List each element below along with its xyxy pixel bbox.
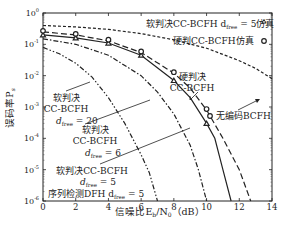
y-tick-label: 10-4	[24, 132, 39, 143]
x-tick-label: 14	[267, 202, 278, 212]
circle-marker	[172, 70, 177, 75]
curve	[43, 35, 231, 201]
label-soft20-1: 软判决	[53, 92, 80, 103]
y-tick-label: 10-3	[24, 101, 39, 112]
label-soft6-1: 软判决	[82, 124, 109, 135]
circle-marker	[106, 37, 111, 42]
y-tick-label: 10-2	[24, 70, 39, 81]
y-axis-label: 误码率Ps	[4, 88, 16, 128]
label-soft20-2: CC-BCFH	[44, 104, 89, 114]
x-tick-label: 0	[40, 202, 45, 212]
arrow-soft5	[100, 128, 190, 164]
svg-text:误码率Ps: 误码率Ps	[4, 88, 16, 128]
legend-hard-sim: 硬判CC-BCFH仿真	[173, 35, 254, 46]
circle-marker	[139, 49, 144, 54]
label-soft5-1: 软判决CC-BCFH	[56, 165, 128, 176]
x-tick-label: 2	[73, 202, 78, 212]
circle-marker-icon	[208, 114, 213, 119]
label-soft6-2: CC-BCFH	[73, 136, 118, 146]
x-tick-label: 12	[234, 202, 245, 212]
y-tick-label: 10-5	[24, 164, 39, 175]
arrow-uncoded	[238, 100, 258, 110]
label-hard-decision-1: 硬判决	[179, 71, 206, 82]
y-tick-label: 10-1	[24, 38, 39, 49]
y-tick-label: 100	[26, 7, 39, 18]
y-tick-label: 10-6	[24, 195, 39, 206]
ber-chart: 0246810121410010-110-210-310-410-510-6 误…	[0, 0, 288, 238]
curve	[43, 39, 207, 201]
arrow-soft6	[85, 100, 150, 124]
x-tick-label: 4	[106, 202, 111, 212]
circle-marker	[204, 107, 209, 112]
x-axis-label: 信噪比Eb/N0（dB）	[115, 206, 204, 218]
label-hard-decision-2: CC-BCFH	[170, 83, 215, 93]
legend-soft-sim: 软判决CC-BCFH dfree = 5仿真	[146, 18, 274, 30]
circle-marker-icon	[262, 39, 267, 44]
chart-container: 0246810121410010-110-210-310-410-510-6 误…	[0, 0, 288, 238]
triangle-marker	[204, 121, 209, 125]
label-dfh: 序列检测DFH dfree = 5	[48, 188, 144, 200]
circle-marker	[73, 32, 78, 37]
arrow-soft20	[66, 82, 90, 91]
label-uncoded: 无编码BCFH	[216, 110, 271, 121]
circle-marker	[41, 29, 46, 34]
label-soft5-2: dfree = 5	[80, 177, 116, 188]
